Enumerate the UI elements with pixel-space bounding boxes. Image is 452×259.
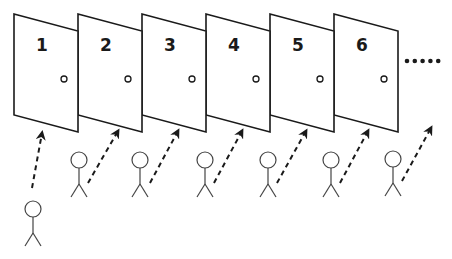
door-5: 5 xyxy=(270,14,334,132)
person-3 xyxy=(132,131,178,197)
person-2 xyxy=(71,131,118,197)
ellipsis-dot xyxy=(436,59,441,64)
person-7 xyxy=(385,128,431,196)
continuation-dots xyxy=(405,59,441,64)
dashed-arrow-icon xyxy=(340,131,368,183)
door-number-label: 3 xyxy=(164,35,176,55)
door-6: 6 xyxy=(334,14,398,132)
door-number-label: 1 xyxy=(36,35,48,55)
people-group xyxy=(25,128,431,246)
door-1: 1 xyxy=(14,14,78,132)
ellipsis-dot xyxy=(428,59,433,64)
dashed-arrow-icon xyxy=(277,131,306,183)
doors-diagram: 654321 xyxy=(0,0,452,259)
door-number-label: 2 xyxy=(100,35,112,55)
dashed-arrow-icon xyxy=(214,131,242,183)
door-number-label: 5 xyxy=(292,35,304,55)
ellipsis-dot xyxy=(413,59,418,64)
door-3: 3 xyxy=(142,14,206,132)
stick-figure-icon xyxy=(385,151,401,196)
door-knob-icon xyxy=(317,76,323,82)
ellipsis-dot xyxy=(420,59,425,64)
door-number-label: 6 xyxy=(356,35,368,55)
door-knob-icon xyxy=(189,76,195,82)
door-2: 2 xyxy=(78,14,142,132)
door-4: 4 xyxy=(206,14,270,132)
ellipsis-dot xyxy=(405,59,410,64)
person-5 xyxy=(260,131,306,197)
door-knob-icon xyxy=(61,76,67,82)
dashed-arrow-icon xyxy=(88,131,118,183)
door-number-label: 4 xyxy=(228,35,240,55)
door-panel xyxy=(78,14,142,132)
door-panel xyxy=(270,14,334,132)
door-knob-icon xyxy=(253,76,259,82)
stick-figure-icon xyxy=(323,152,339,197)
door-knob-icon xyxy=(381,76,387,82)
door-panel xyxy=(14,14,78,132)
door-panel xyxy=(334,14,398,132)
stick-figure-icon xyxy=(71,152,87,197)
doors-row: 654321 xyxy=(14,14,398,132)
stick-figure-icon xyxy=(197,152,213,197)
dashed-arrow-icon xyxy=(402,128,431,181)
dashed-arrow-icon xyxy=(32,133,42,188)
door-knob-icon xyxy=(125,76,131,82)
door-panel xyxy=(206,14,270,132)
person-4 xyxy=(197,131,242,197)
stick-figure-icon xyxy=(260,152,276,197)
person-6 xyxy=(323,131,368,197)
stick-figure-icon xyxy=(25,201,41,246)
door-panel xyxy=(142,14,206,132)
person-1 xyxy=(25,133,42,246)
stick-figure-icon xyxy=(132,152,148,197)
dashed-arrow-icon xyxy=(150,131,178,183)
